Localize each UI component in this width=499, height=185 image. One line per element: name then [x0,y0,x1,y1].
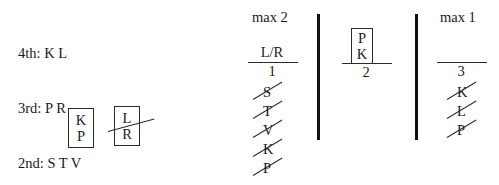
struck-letter[interactable]: S [255,84,289,103]
divider-right [415,14,418,140]
column-3-struck-list: K L P [449,84,483,141]
column-1-numerator: L/R [250,44,294,60]
column-3-denominator: 3 [439,63,483,79]
struck-letter[interactable]: P [449,122,483,141]
column-1-struck-list: S T V K P [255,84,289,179]
column-2-denominator: 2 [344,64,388,80]
box-kp-bottom-letter: P [69,128,93,144]
box-kp-top-letter: K [69,112,93,128]
column-3-title: max 1 [440,9,476,25]
box-pk[interactable]: P K [351,28,373,64]
column-1-denominator: 1 [250,63,294,79]
struck-letter[interactable]: L [449,103,483,122]
struck-letter[interactable]: K [449,84,483,103]
box-kp[interactable]: K P [68,108,94,148]
box-pk-bottom-letter: K [352,46,372,62]
struck-letter[interactable]: K [255,141,289,160]
diagram-canvas: 4th: K L 3rd: P R 2nd: S T V K P L R max… [0,0,499,185]
rank-legend: 4th: K L 3rd: P R 2nd: S T V [18,8,81,185]
box-pk-top-letter: P [352,30,372,46]
struck-letter[interactable]: V [255,122,289,141]
rank-legend-row-4th: 4th: K L [18,44,81,62]
struck-letter[interactable]: P [255,160,289,179]
struck-letter[interactable]: T [255,103,289,122]
column-1-title: max 2 [252,9,288,25]
rank-legend-row-2nd: 2nd: S T V [18,154,81,172]
divider-left [317,14,320,140]
